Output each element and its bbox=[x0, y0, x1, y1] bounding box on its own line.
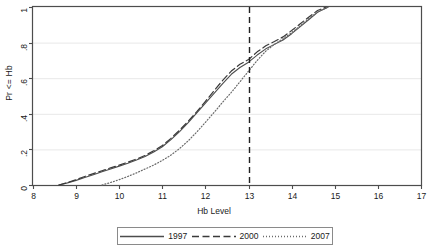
series-line-2007 bbox=[102, 7, 328, 185]
legend-label-1997: 1997 bbox=[168, 231, 187, 241]
x-tick-label-17: 17 bbox=[412, 191, 428, 201]
plot-frame bbox=[33, 7, 422, 186]
x-tick-label-14: 14 bbox=[283, 191, 303, 201]
series-line-2000 bbox=[59, 7, 326, 185]
legend-swatch-1997 bbox=[120, 233, 164, 240]
legend-label-2007: 2007 bbox=[311, 231, 330, 241]
cdf-figure: Pr <= Hb Hb Level 891011121314151617 0.2… bbox=[0, 0, 428, 248]
x-axis-label: Hb Level bbox=[0, 206, 428, 216]
x-tick-label-10: 10 bbox=[110, 191, 130, 201]
legend-swatch-2007 bbox=[263, 233, 307, 240]
y-tick-label-1: 1 bbox=[19, 8, 29, 24]
x-tick-label-9: 9 bbox=[67, 191, 87, 201]
y-tick-label-0: 0 bbox=[19, 186, 29, 202]
legend-item-2000[interactable]: 2000 bbox=[192, 231, 259, 241]
x-tick-label-15: 15 bbox=[326, 191, 346, 201]
legend-swatch-2000 bbox=[192, 233, 236, 240]
x-tick-label-11: 11 bbox=[153, 191, 173, 201]
legend-label-2000: 2000 bbox=[240, 231, 259, 241]
y-tick-label-.2: .2 bbox=[19, 150, 29, 166]
y-tick-label-.6: .6 bbox=[19, 79, 29, 95]
series-line-1997 bbox=[59, 7, 328, 185]
y-tick-label-.4: .4 bbox=[19, 115, 29, 131]
chart-legend[interactable]: 199720002007 bbox=[117, 227, 333, 245]
x-tick-label-16: 16 bbox=[369, 191, 389, 201]
y-tick-label-.8: .8 bbox=[19, 44, 29, 60]
series-lines bbox=[59, 7, 328, 185]
x-tick-label-13: 13 bbox=[240, 191, 260, 201]
y-axis-label: Pr <= Hb bbox=[4, 48, 14, 118]
legend-item-2007[interactable]: 2007 bbox=[263, 231, 330, 241]
x-tick-label-12: 12 bbox=[196, 191, 216, 201]
legend-item-1997[interactable]: 1997 bbox=[120, 231, 187, 241]
